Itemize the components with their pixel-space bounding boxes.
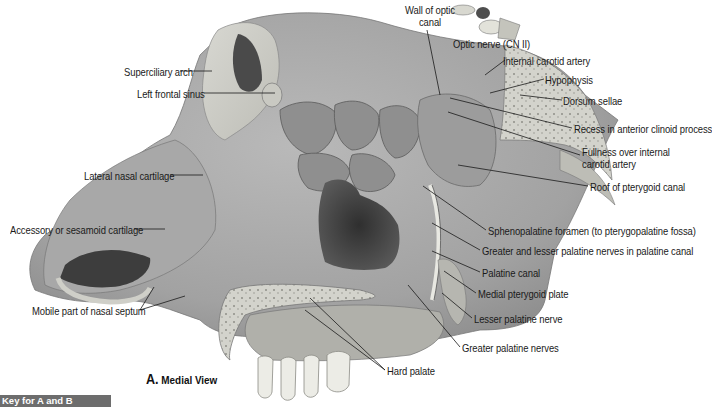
tooth [258,356,273,398]
label-mobile-nasal-septum: Mobile part of nasal septum [32,305,146,317]
internal-carotid-shape [476,7,490,19]
key-bar: Key for A and B [0,395,111,407]
label-medial-pterygoid-plate: Medial pterygoid plate [478,288,568,300]
teeth [258,351,350,400]
label-fullness-over-carotid: Fullness over internal carotid artery [582,146,670,170]
label-greater-lesser-palatine-nerves: Greater and lesser palatine nerves in pa… [482,245,693,257]
label-accessory-sesamoid-cartilage: Accessory or sesamoid cartilage [10,224,143,236]
label-roof-pterygoid-canal: Roof of pterygoid canal [590,181,685,193]
left-frontal-sinus [262,83,282,107]
label-internal-carotid-artery: Internal carotid artery [503,55,590,67]
label-palatine-canal: Palatine canal [482,267,540,279]
label-optic-nerve: Optic nerve (CN II) [453,38,530,50]
tooth [281,357,296,400]
view-title-text: Medial View [161,374,217,386]
dorsum-sellae-shape [498,18,520,40]
label-hypophysis: Hypophysis [545,74,593,86]
label-greater-palatine-nerves: Greater palatine nerves [462,342,559,354]
label-hard-palate: Hard palate [387,365,435,377]
label-left-frontal-sinus: Left frontal sinus [137,88,205,100]
label-lesser-palatine-nerve: Lesser palatine nerve [474,313,562,325]
tooth [304,355,319,397]
label-sphenopalatine-foramen: Sphenopalatine foramen (to pterygopalati… [488,225,696,237]
view-title-letter: A. [146,371,159,387]
label-recess-anterior-clinoid: Recess in anterior clinoid process [574,123,712,135]
label-superciliary-arch: Superciliary arch [124,66,193,78]
view-title: A. Medial View [146,371,217,387]
label-lateral-nasal-cartilage: Lateral nasal cartilage [84,170,174,182]
label-dorsum-sellae: Dorsum sellae [563,95,622,107]
tooth [327,351,350,392]
label-wall-of-optic-canal: Wall of optic canal [401,4,459,28]
